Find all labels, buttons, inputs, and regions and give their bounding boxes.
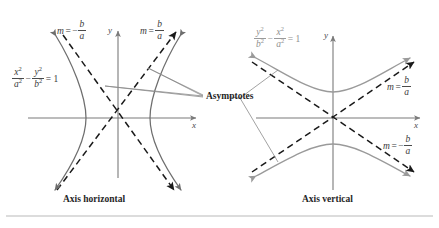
- right-eq-num1-exp: 2: [260, 25, 263, 32]
- right-slope-neg-m: m: [383, 141, 390, 151]
- left-panel-graphics: [28, 31, 203, 190]
- right-equation-fraction-2: x2 a2: [274, 27, 286, 50]
- left-y-axis-label: y: [108, 25, 112, 35]
- left-hyperbola-branch-right: [150, 36, 181, 190]
- left-slope-neg-fraction: b a: [78, 19, 87, 42]
- right-x-axis-label: x: [414, 120, 418, 130]
- left-equation: x2 a2 − y2 b2 = 1: [12, 68, 60, 91]
- right-asymptote-leader-bracket: [240, 70, 278, 162]
- right-eq-equals: = 1: [286, 34, 301, 44]
- right-slope-neg-equals: =: [390, 141, 398, 151]
- right-slope-pos-m: m: [387, 82, 394, 92]
- right-slope-pos-fraction: b a: [402, 75, 411, 98]
- left-eq-den1-exp: 2: [19, 77, 22, 84]
- left-x-axis-label: x: [192, 120, 196, 130]
- left-slope-neg-num: b: [78, 19, 87, 31]
- asymptotes-label: Asymptotes: [206, 91, 254, 101]
- right-slope-pos-equals: =: [394, 82, 402, 92]
- left-slope-pos-den: a: [155, 31, 164, 42]
- right-slope-neg-den: a: [404, 146, 413, 157]
- left-slope-positive-label: m= b a: [140, 20, 164, 43]
- hyperbola-figure: x2 a2 − y2 b2 = 1 m=− b a m= b a y x Axi…: [0, 0, 439, 228]
- right-slope-pos-den: a: [402, 87, 411, 98]
- left-slope-neg-m: m: [57, 26, 64, 36]
- left-slope-negative-label: m=− b a: [57, 20, 86, 43]
- left-eq-equals: = 1: [44, 74, 59, 84]
- left-panel-caption: Axis horizontal: [63, 194, 125, 204]
- left-eq-num2-exp: 2: [39, 65, 42, 72]
- left-asymptote-positive: [57, 32, 176, 190]
- left-equation-fraction-1: x2 a2: [12, 67, 24, 90]
- right-y-axis-label: y: [324, 30, 328, 40]
- right-slope-negative-label: m=− b a: [383, 135, 412, 158]
- left-slope-pos-equals: =: [147, 26, 155, 36]
- right-slope-neg-fraction: b a: [404, 134, 413, 157]
- right-eq-operator: −: [266, 34, 274, 44]
- right-eq-den1-exp: 2: [261, 37, 264, 44]
- left-slope-pos-m: m: [140, 26, 147, 36]
- right-eq-den2-exp: 2: [281, 37, 284, 44]
- left-eq-operator: −: [24, 74, 32, 84]
- right-eq-num2-exp: 2: [281, 25, 284, 32]
- left-eq-num1-exp: 2: [18, 65, 21, 72]
- right-panel-graphics: [229, 36, 420, 190]
- left-equation-fraction-2: y2 b2: [32, 67, 44, 90]
- right-slope-positive-label: m= b a: [387, 76, 411, 99]
- left-slope-neg-equals: =: [64, 26, 72, 36]
- left-slope-pos-fraction: b a: [155, 19, 164, 42]
- right-slope-neg-num: b: [404, 134, 413, 146]
- right-equation: y2 b2 − x2 a2 = 1: [254, 28, 302, 51]
- left-hyperbola-branch-left: [55, 36, 86, 190]
- left-slope-neg-den: a: [78, 31, 87, 42]
- left-eq-den2-exp: 2: [39, 77, 42, 84]
- right-equation-fraction-1: y2 b2: [254, 27, 266, 50]
- right-panel-caption: Axis vertical: [302, 194, 353, 204]
- right-slope-pos-num: b: [402, 75, 411, 87]
- left-slope-pos-num: b: [155, 19, 164, 31]
